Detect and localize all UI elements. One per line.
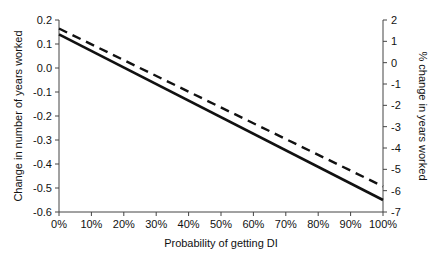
- x-axis: 0%10%20%30%40%50%60%70%80%90%100%: [51, 212, 397, 230]
- y-tick-label: -0.5: [33, 182, 52, 194]
- y2-tick-label: -3: [391, 121, 401, 133]
- y-tick-label: 0.1: [37, 38, 52, 50]
- x-tick-label: 30%: [145, 218, 167, 230]
- x-axis-label: Probability of getting DI: [164, 237, 278, 249]
- y2-tick-label: -2: [391, 99, 401, 111]
- y-tick-label: -0.4: [33, 158, 52, 170]
- x-tick-label: 50%: [210, 218, 232, 230]
- y2-tick-label: -5: [391, 163, 401, 175]
- left-axis: 0.20.10.0-0.1-0.2-0.3-0.4-0.5-0.6: [33, 14, 59, 218]
- x-tick-label: 0%: [51, 218, 67, 230]
- x-tick-label: 80%: [307, 218, 329, 230]
- y-tick-label: 0.2: [37, 14, 52, 26]
- y-tick-label: -0.3: [33, 134, 52, 146]
- x-tick-label: 40%: [178, 218, 200, 230]
- y2-tick-label: -1: [391, 78, 401, 90]
- x-tick-label: 20%: [113, 218, 135, 230]
- right-axis: 210-1-2-3-4-5-6-7: [383, 14, 401, 218]
- x-tick-label: 90%: [340, 218, 362, 230]
- x-tick-label: 10%: [80, 218, 102, 230]
- series-line-dashed: [59, 29, 383, 187]
- y2-tick-label: -6: [391, 185, 401, 197]
- y-tick-label: -0.2: [33, 110, 52, 122]
- y2-tick-label: 0: [391, 57, 397, 69]
- x-tick-label: 60%: [242, 218, 264, 230]
- x-tick-label: 70%: [275, 218, 297, 230]
- y-tick-label: 0.0: [37, 62, 52, 74]
- y-tick-label: -0.1: [33, 86, 52, 98]
- y2-axis-label: % change in years worked: [417, 51, 429, 180]
- chart: 0.20.10.0-0.1-0.2-0.3-0.4-0.5-0.6 210-1-…: [0, 0, 433, 264]
- x-tick-label: 100%: [369, 218, 397, 230]
- y2-tick-label: -7: [391, 206, 401, 218]
- y-tick-label: -0.6: [33, 206, 52, 218]
- y-axis-label: Change in number of years worked: [12, 30, 24, 201]
- y2-tick-label: 1: [391, 35, 397, 47]
- y2-tick-label: 2: [391, 14, 397, 26]
- series-line-solid: [59, 34, 383, 200]
- y2-tick-label: -4: [391, 142, 401, 154]
